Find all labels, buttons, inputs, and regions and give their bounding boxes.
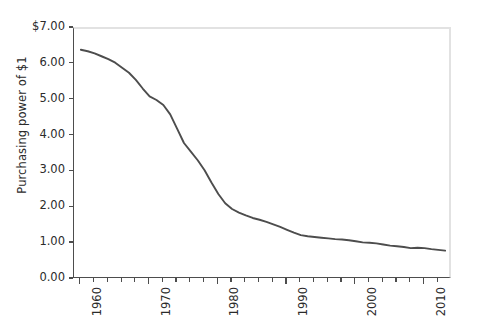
x-tick-label: 1990 — [296, 287, 310, 333]
plot-area — [73, 27, 451, 278]
x-tick-label: 1960 — [90, 287, 104, 333]
y-tick-label: 5.00 — [39, 91, 65, 105]
y-tick-label: $7.00 — [32, 19, 65, 33]
y-tick-label: 2.00 — [39, 198, 65, 212]
x-tick-label: 1970 — [159, 287, 173, 333]
chart-figure: Purchasing power of $1 0.001.002.003.004… — [0, 0, 482, 334]
y-tick-label: 3.00 — [39, 162, 65, 176]
y-tick-label: 4.00 — [39, 127, 65, 141]
x-tick-label: 2000 — [365, 287, 379, 333]
y-axis-title: Purchasing power of $1 — [15, 0, 29, 255]
purchasing-power-line — [81, 50, 445, 251]
y-tick-label: 6.00 — [39, 55, 65, 69]
data-series-line — [74, 29, 452, 280]
y-tick-label: 1.00 — [39, 234, 65, 248]
x-tick-label: 2010 — [434, 287, 448, 333]
y-tick-label: 0.00 — [39, 270, 65, 284]
x-tick-label: 1980 — [227, 287, 241, 333]
